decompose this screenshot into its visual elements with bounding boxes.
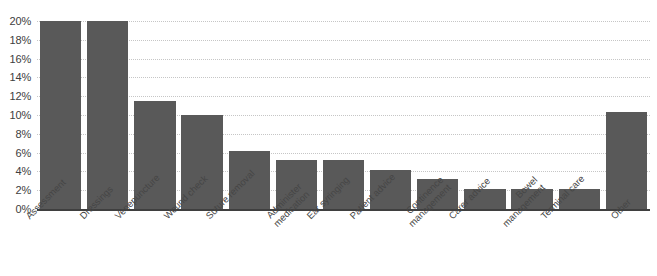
y-tick-label: 20%	[10, 15, 31, 27]
y-tick-label: 6%	[16, 147, 32, 159]
x-axis: AssessmentDressingsVenepunctureWound che…	[37, 211, 657, 276]
y-tick-label: 2%	[16, 184, 32, 196]
y-tick-label: 8%	[16, 128, 32, 140]
y-axis: 0%2%4%6%8%10%12%14%16%18%20%	[0, 21, 31, 209]
bar[interactable]	[87, 21, 128, 209]
y-tick-label: 14%	[10, 71, 31, 83]
y-tick-label: 12%	[10, 90, 31, 102]
bar-chart: 0%2%4%6%8%10%12%14%16%18%20% AssessmentD…	[0, 0, 657, 276]
y-tick-label: 10%	[10, 109, 31, 121]
bar[interactable]	[606, 112, 647, 209]
y-tick-label: 16%	[10, 53, 31, 65]
y-tick-label: 4%	[16, 165, 32, 177]
y-tick-label: 18%	[10, 34, 31, 46]
